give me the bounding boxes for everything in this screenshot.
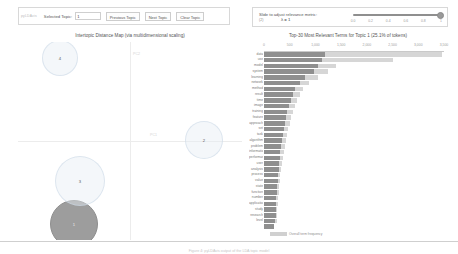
- bar-term-label: study: [249, 207, 263, 212]
- slider-tick-5: 1: [440, 19, 442, 23]
- bar-topic-frequency: [264, 75, 305, 80]
- bar-topic-frequency: [264, 69, 314, 74]
- bar-term-label: function: [249, 190, 263, 195]
- bar-topic-frequency: [264, 121, 285, 126]
- bar-chart-legend: Overall term frequency: [270, 232, 322, 236]
- bar-topic-frequency: [264, 207, 276, 212]
- bar-term-label: performance: [249, 155, 263, 160]
- x-tick-5: 2,500: [388, 43, 397, 47]
- bar-topic-frequency: [264, 98, 291, 103]
- bar-term-label: use: [249, 57, 263, 62]
- bar-topic-frequency: [264, 87, 295, 92]
- bar-term-label: model: [249, 63, 263, 68]
- term-chart-title: Top-30 Most Relevant Terms for Topic 1 (…: [248, 33, 448, 38]
- bar-topic-frequency: [264, 213, 276, 218]
- bar-term-label: analysis: [249, 167, 263, 172]
- bar-topic-frequency: [264, 138, 282, 143]
- x-tick-2: 1,000: [311, 43, 320, 47]
- bar-topic-frequency: [264, 64, 318, 69]
- bar-term-label: set: [249, 126, 263, 131]
- intertopic-map-title: Intertopic Distance Map (via multidimens…: [18, 33, 242, 38]
- intertopic-distance-panel: Intertopic Distance Map (via multidimens…: [18, 30, 242, 242]
- bar-term-label: process: [249, 172, 263, 177]
- next-topic-button[interactable]: Next Topic: [145, 12, 172, 21]
- bar-term-label: value: [249, 178, 263, 183]
- bar-topic-frequency: [264, 219, 275, 224]
- slider-title: Slide to adjust relevance metric:: [259, 12, 317, 17]
- term-bar-chart-panel: Top-30 Most Relevant Terms for Topic 1 (…: [248, 30, 448, 242]
- bar-chart-x-axis: 05001,0001,5002,0002,5003,0003,500: [264, 43, 444, 49]
- figure-baseline: [0, 241, 458, 242]
- bar-term-label: network: [249, 80, 263, 85]
- legend-label-overall: Overall term frequency: [289, 232, 322, 236]
- bar-topic-frequency: [264, 202, 276, 207]
- bar-term-label: research: [249, 213, 263, 218]
- bar-term-label: task: [249, 132, 263, 137]
- slider-track[interactable]: [353, 14, 441, 16]
- x-tick-0: 0: [263, 43, 265, 47]
- bar-term-label: image: [249, 103, 263, 108]
- pyldavis-visualization: pyLDAvis Selected Topic: 1 Previous Topi…: [0, 0, 458, 254]
- bar-topic-frequency: [264, 133, 283, 138]
- bar-term-label: state: [249, 184, 263, 189]
- bar-term-label: number: [249, 195, 263, 200]
- bar-topic-frequency: [264, 110, 287, 115]
- bar-term-label: learning: [249, 75, 263, 80]
- slider-tick-1: 0.2: [368, 19, 373, 23]
- clear-topic-button[interactable]: Clear Topic: [176, 12, 204, 21]
- bar-topic-frequency: [264, 58, 322, 63]
- y-axis-line: [130, 42, 131, 240]
- topic-circle-1[interactable]: [50, 200, 98, 240]
- slider-tick-3: 0.6: [403, 19, 408, 23]
- bar-topic-frequency: [264, 179, 278, 184]
- figure-caption: Figure 4: pyLDAvis output of the LDA top…: [0, 249, 458, 253]
- bar-term-label: training: [249, 109, 263, 114]
- slider-handle[interactable]: [437, 12, 444, 19]
- bar-term-label: result: [249, 92, 263, 97]
- bar-chart-bars[interactable]: datausemodelsystemlearningnetworkmethodr…: [248, 52, 448, 225]
- bar-term-label: level: [249, 218, 263, 223]
- bar-term-label: time: [249, 98, 263, 103]
- bar-topic-frequency: [264, 150, 280, 155]
- topic-label-4: 4: [59, 56, 61, 61]
- x-tick-6: 3,000: [414, 43, 423, 47]
- bar-term-label: information: [249, 149, 263, 154]
- bar-term-label: system: [249, 69, 263, 74]
- toolbar-prefix-label: pyLDAvis: [19, 14, 37, 18]
- legend-color-box: [264, 224, 274, 229]
- slider-tick-4: 0.8: [421, 19, 426, 23]
- topic-scatter-plot[interactable]: PC1 PC2 1234: [18, 42, 242, 240]
- bar-term-label: algorithm: [249, 138, 263, 143]
- bar-topic-frequency: [264, 167, 279, 172]
- topic-label-3: 3: [79, 179, 81, 184]
- slider-tick-labels: 0.00.20.40.60.81: [353, 19, 444, 25]
- x-tick-3: 1,500: [337, 43, 346, 47]
- topic-toolbar: pyLDAvis Selected Topic: 1 Previous Topi…: [18, 7, 230, 25]
- x-tick-1: 500: [287, 43, 293, 47]
- bar-term-label: approach: [249, 121, 263, 126]
- pc1-axis-label: PC1: [150, 133, 157, 137]
- topic-label-1: 1: [73, 222, 75, 227]
- bar-row[interactable]: level: [248, 218, 448, 224]
- bar-topic-frequency: [264, 127, 284, 132]
- bar-topic-frequency: [264, 81, 300, 86]
- bar-term-label: feature: [249, 115, 263, 120]
- slider-tick-2: 0.4: [386, 19, 391, 23]
- bar-topic-frequency: [264, 196, 276, 201]
- slider-metric-note: (2): [259, 18, 263, 22]
- topic-label-2: 2: [203, 138, 205, 143]
- bar-topic-frequency: [264, 92, 293, 97]
- bar-topic-frequency: [264, 190, 277, 195]
- x-tick-7: 3,500: [440, 43, 449, 47]
- selected-topic-input[interactable]: 1: [75, 12, 101, 21]
- relevance-slider-panel: Slide to adjust relevance metric: (2) λ …: [252, 7, 448, 27]
- x-tick-4: 2,000: [363, 43, 372, 47]
- slider-tick-0: 0.0: [351, 19, 356, 23]
- bar-term-label: problem: [249, 144, 263, 149]
- bar-topic-frequency: [264, 144, 281, 149]
- bar-topic-frequency: [264, 161, 279, 166]
- bar-term-label: application: [249, 201, 263, 206]
- lambda-value-label: λ = 1: [281, 17, 290, 22]
- bar-topic-frequency: [264, 104, 289, 109]
- previous-topic-button[interactable]: Previous Topic: [106, 12, 140, 21]
